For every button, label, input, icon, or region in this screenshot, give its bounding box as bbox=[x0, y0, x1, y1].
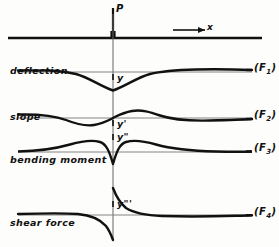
panel-label-shear-force: shear force bbox=[10, 218, 75, 228]
shear-force-curve-right bbox=[113, 188, 252, 216]
function-label-f2: (F2) bbox=[254, 110, 276, 123]
variable-label-y-double-prime: y" bbox=[117, 132, 129, 142]
function-label-f1-index: 1 bbox=[266, 68, 271, 76]
panel-label-bending-moment: bending moment bbox=[10, 155, 107, 165]
variable-label-y-prime: y' bbox=[117, 119, 127, 129]
figure-canvas bbox=[0, 0, 279, 247]
function-label-f4: (F4) bbox=[254, 207, 276, 220]
panel-shear-force bbox=[18, 188, 252, 240]
function-label-f4-index: 4 bbox=[266, 212, 271, 220]
x-axis-label: x bbox=[207, 23, 213, 32]
variable-label-y: y bbox=[117, 73, 124, 83]
variable-label-y-triple-prime: y"' bbox=[117, 199, 132, 209]
beam-response-figure: P x deflection slope bending moment shea… bbox=[0, 0, 279, 247]
function-label-f3-index: 3 bbox=[266, 148, 271, 156]
load-label-P: P bbox=[116, 4, 124, 14]
function-label-f3: (F3) bbox=[254, 143, 276, 156]
x-axis-arrow bbox=[173, 27, 205, 33]
function-label-f2-index: 2 bbox=[266, 115, 271, 123]
panel-slope bbox=[18, 111, 252, 126]
panel-label-deflection: deflection bbox=[10, 66, 68, 76]
function-label-f1: (F1) bbox=[254, 63, 276, 76]
panel-label-slope: slope bbox=[10, 112, 41, 122]
